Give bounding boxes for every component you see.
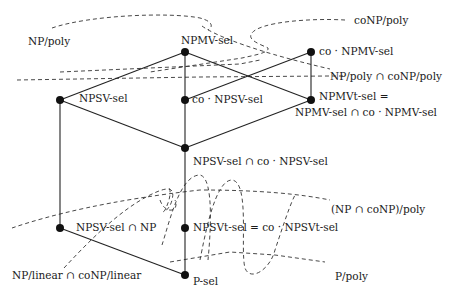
label-np-cap-conp-poly: (NP ∩ coNP)/poly	[331, 204, 425, 215]
np-poly-cap-conp-poly-boundary-2	[17, 76, 346, 80]
label-npmvt-sel-line1: NPMVt-sel =	[319, 91, 388, 102]
node-npsv-sel	[56, 96, 64, 104]
label-npsv-cap-conpsv: NPSV-sel ∩ co · NPSV-sel	[193, 156, 328, 167]
label-p-poly: P/poly	[335, 271, 368, 282]
edge-npmvt-cap	[185, 100, 311, 148]
label-npmv-sel: NPMV-sel	[181, 35, 233, 46]
node-co-npsv-sel	[181, 96, 189, 104]
np-poly-boundary	[52, 15, 211, 30]
node-npmvt-sel	[307, 96, 315, 104]
node-p-sel	[181, 271, 189, 279]
wave-curve-1	[162, 175, 210, 260]
label-conp-poly: coNP/poly	[354, 15, 408, 26]
label-np-poly-cap-conp-poly: NP/poly ∩ coNP/poly	[330, 71, 442, 82]
label-np-poly: NP/poly	[28, 36, 70, 47]
node-npsvt-sel	[181, 224, 189, 232]
node-npsv-cap-np	[56, 224, 64, 232]
label-np-linear-cap-conp-linear: NP/linear ∩ coNP/linear	[12, 270, 141, 281]
node-co-npmv-sel	[307, 48, 315, 56]
label-co-npmv-sel: co · NPMV-sel	[319, 46, 393, 57]
p-poly-boundary	[170, 252, 325, 262]
label-npsvt-sel: NPSVt-sel = co · NPSVt-sel	[193, 222, 338, 233]
label-p-sel: P-sel	[193, 276, 218, 287]
label-co-npsv-sel: co · NPSV-sel	[192, 94, 263, 105]
label-npsv-sel: NPSV-sel	[79, 93, 128, 104]
edge-npsvnp-psel	[60, 228, 185, 275]
label-npmvt-sel-line2: NPMV-sel ∩ co · NPMV-sel	[295, 107, 437, 118]
node-npmv-sel	[181, 48, 189, 56]
node-npsv-cap-conpsv	[181, 144, 189, 152]
label-npsv-cap-np: NPSV-sel ∩ NP	[76, 222, 156, 233]
edge-npsv-cap	[60, 100, 185, 148]
